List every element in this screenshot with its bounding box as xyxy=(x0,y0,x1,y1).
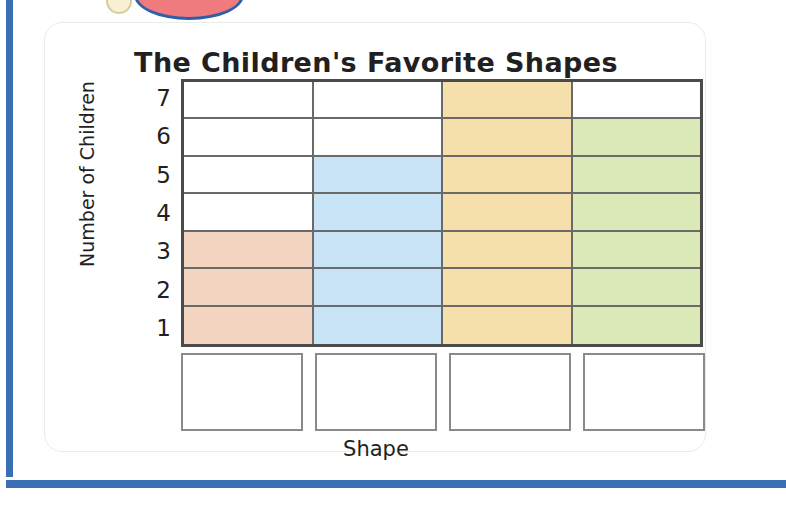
grid-row xyxy=(184,194,700,231)
grid-row xyxy=(184,82,700,119)
y-tick-label: 6 xyxy=(137,123,171,149)
decorative-circle-icon xyxy=(106,0,132,14)
y-tick-label: 7 xyxy=(137,85,171,111)
shape-answer-box-row xyxy=(181,353,705,435)
grid-cell[interactable] xyxy=(184,194,314,229)
y-axis-label: Number of Children xyxy=(76,74,98,274)
grid-cell[interactable] xyxy=(443,157,573,192)
grid-cell[interactable] xyxy=(314,82,444,117)
y-tick-label: 4 xyxy=(137,200,171,226)
x-axis-label: Shape xyxy=(45,437,707,461)
grid-cell[interactable] xyxy=(573,82,701,117)
grid-cell[interactable] xyxy=(184,232,314,267)
bar-chart-plot-area: 7 6 5 4 3 2 1 xyxy=(137,79,703,349)
bar-chart-grid[interactable] xyxy=(181,79,703,347)
grid-cell[interactable] xyxy=(443,82,573,117)
grid-cell[interactable] xyxy=(314,232,444,267)
grid-cell[interactable] xyxy=(314,307,444,344)
grid-cell[interactable] xyxy=(314,157,444,192)
decorative-oval-icon xyxy=(134,0,244,20)
grid-cell[interactable] xyxy=(573,157,701,192)
page-frame-bottom-rule-highlight xyxy=(6,477,786,480)
grid-cell[interactable] xyxy=(443,232,573,267)
shape-answer-box[interactable] xyxy=(449,353,571,431)
grid-row xyxy=(184,232,700,269)
grid-cell[interactable] xyxy=(573,307,701,344)
grid-cell[interactable] xyxy=(443,307,573,344)
y-tick-label: 5 xyxy=(137,162,171,188)
grid-cell[interactable] xyxy=(314,194,444,229)
page-frame-left-rule-inner xyxy=(13,0,16,480)
page-frame-left-rule xyxy=(6,0,13,480)
shape-answer-box[interactable] xyxy=(181,353,303,431)
grid-row xyxy=(184,157,700,194)
page-frame-bottom-rule xyxy=(6,480,786,488)
grid-cell[interactable] xyxy=(184,119,314,154)
grid-cell[interactable] xyxy=(184,157,314,192)
grid-row xyxy=(184,307,700,344)
y-tick-label: 3 xyxy=(137,238,171,264)
grid-cell[interactable] xyxy=(573,119,701,154)
grid-cell[interactable] xyxy=(184,82,314,117)
grid-cell[interactable] xyxy=(184,307,314,344)
grid-cell[interactable] xyxy=(573,232,701,267)
grid-cell[interactable] xyxy=(573,269,701,304)
y-tick-label: 2 xyxy=(137,277,171,303)
y-axis-tick-column: 7 6 5 4 3 2 1 xyxy=(137,79,177,347)
grid-cell[interactable] xyxy=(314,119,444,154)
grid-cell[interactable] xyxy=(443,119,573,154)
grid-row xyxy=(184,269,700,306)
page-title: The Children's Favorite Shapes xyxy=(45,47,707,78)
grid-cell[interactable] xyxy=(443,269,573,304)
grid-cell[interactable] xyxy=(314,269,444,304)
grid-row xyxy=(184,119,700,156)
grid-cell[interactable] xyxy=(184,269,314,304)
grid-cell[interactable] xyxy=(573,194,701,229)
worksheet-card: The Children's Favorite Shapes Number of… xyxy=(44,22,706,452)
shape-answer-box[interactable] xyxy=(583,353,705,431)
grid-cell[interactable] xyxy=(443,194,573,229)
y-tick-label: 1 xyxy=(137,315,171,341)
shape-answer-box[interactable] xyxy=(315,353,437,431)
